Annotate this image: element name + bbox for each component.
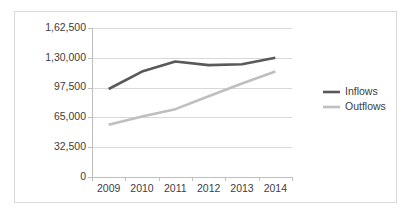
legend-label-outflows[interactable]: Outflows (345, 100, 386, 112)
x-axis-tick-labels: 200920102011201220132014 (97, 182, 287, 194)
y-axis-tick-labels: 032,50065,00097,5001,30,0001,62,500 (45, 21, 92, 182)
x-axis-tick-label: 2009 (97, 182, 121, 194)
y-axis-tick-label: 1,30,000 (45, 51, 86, 63)
series-line-inflows (109, 58, 276, 89)
x-axis-tick-label: 2012 (197, 182, 221, 194)
legend-label-inflows[interactable]: Inflows (345, 85, 378, 97)
x-axis-tick-label: 2010 (130, 182, 154, 194)
y-axis-tick-label: 0 (80, 170, 86, 182)
y-axis-tick-label: 32,500 (54, 140, 86, 152)
x-axis-tick-label: 2011 (164, 182, 187, 194)
chart-legend: InflowsOutflows (323, 85, 386, 112)
y-axis-tick-label: 97,500 (54, 80, 86, 92)
y-axis-tick-label: 1,62,500 (45, 21, 86, 33)
line-chart: 032,50065,00097,5001,30,0001,62,500 2009… (0, 0, 415, 216)
data-series (109, 58, 276, 125)
series-line-outflows (109, 72, 276, 125)
x-axis-tick-label: 2014 (264, 182, 288, 194)
y-axis-tick-label: 65,000 (54, 110, 86, 122)
x-axis-tick-label: 2013 (230, 182, 254, 194)
